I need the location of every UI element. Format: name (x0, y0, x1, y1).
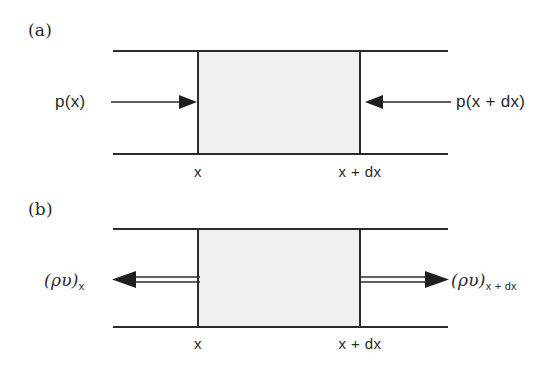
panel-b-right-label-sub: x + dx (486, 280, 517, 292)
panel-a-left-arrow (111, 92, 201, 112)
panel-b-left-label: (ρυ)x (44, 270, 85, 292)
panel-b-bottom-wall (113, 326, 448, 328)
panel-b-right-label: (ρυ)x + dx (451, 270, 517, 292)
panel-b-left-label-sub: x (79, 280, 85, 292)
panel-b-right-label-base: (ρυ) (451, 270, 486, 290)
panel-a-left-tick: x (178, 163, 218, 180)
panel-a-letter: (a) (28, 20, 52, 40)
panel-b-control-volume (199, 230, 360, 326)
panel-b-left-label-base: (ρυ) (44, 270, 79, 290)
panel-a-left-label: p(x) (55, 92, 85, 112)
panel-b-left-tick: x (178, 335, 218, 352)
panel-a-control-volume (199, 52, 360, 153)
panel-a-right-label: p(x + dx) (456, 92, 525, 112)
panel-b-letter: (b) (28, 199, 53, 219)
figure-canvas: (a) p(x) p(x + dx) x x + dx (b) (0, 0, 542, 372)
panel-a-right-tick: x + dx (320, 163, 400, 180)
panel-b-right-tick: x + dx (320, 335, 400, 352)
panel-b-left-arrow (110, 270, 200, 290)
panel-b-right-arrow (361, 270, 451, 290)
panel-a-right-arrow (361, 92, 451, 112)
panel-a-bottom-wall (113, 153, 448, 155)
